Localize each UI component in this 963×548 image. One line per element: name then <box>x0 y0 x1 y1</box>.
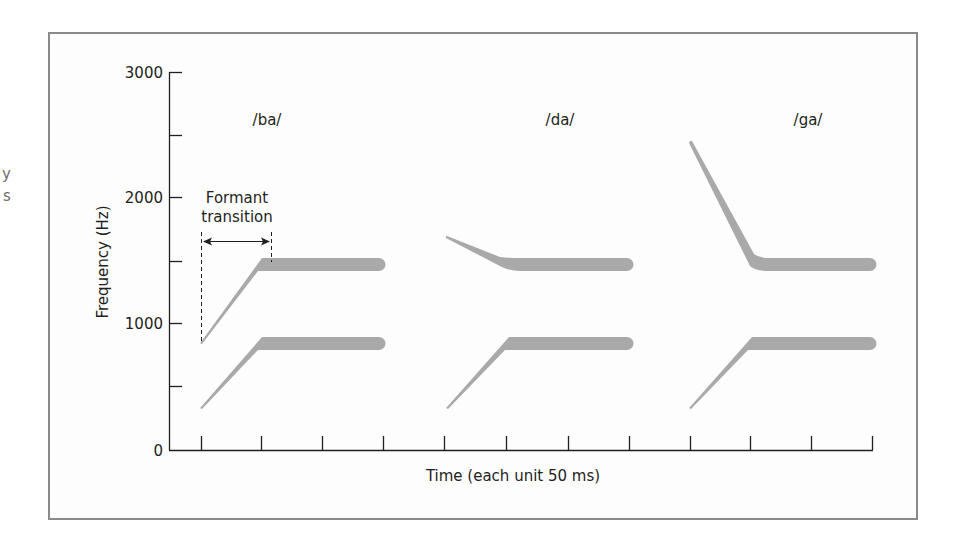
panel-label-ga: /ga/ <box>794 111 824 129</box>
y-tick-label: 0 <box>153 442 163 460</box>
y-axis <box>169 72 182 450</box>
y-axis-title: Frequency (Hz) <box>94 205 112 318</box>
y-tick-label: 3000 <box>125 64 163 82</box>
y-tick-label: 1000 <box>125 315 163 333</box>
x-axis-title: Time (each unit 50 ms) <box>425 467 600 485</box>
panel-label-da: /da/ <box>546 111 576 129</box>
ga-f2-formant <box>689 141 877 271</box>
annotation-label-line1: Formant <box>206 189 268 207</box>
ga-f1-formant <box>689 337 877 409</box>
panel-label-ba: /ba/ <box>253 111 283 129</box>
formant-chart: 3000 2000 1000 0 Frequency (Hz) Time (ea… <box>0 0 963 548</box>
x-axis <box>169 436 873 451</box>
da-f2-formant <box>446 236 634 271</box>
annotation-label-line2: transition <box>201 208 272 226</box>
y-tick-label: 2000 <box>125 189 163 207</box>
da-f1-formant <box>446 337 634 409</box>
ba-f2-formant <box>200 258 386 344</box>
ba-f1-formant <box>200 337 386 409</box>
